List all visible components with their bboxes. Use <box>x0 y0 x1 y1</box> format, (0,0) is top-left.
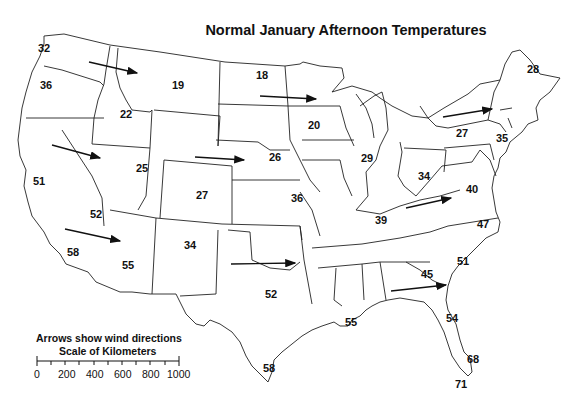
temp-key-west: 71 <box>455 379 467 390</box>
legend-scale-title: Scale of Kilometers <box>59 345 156 357</box>
legend-wind-note: Arrows show wind directions <box>36 332 182 344</box>
temp-nebraska: 26 <box>269 152 281 163</box>
temp-georgia: 45 <box>421 269 433 280</box>
temp-idaho: 22 <box>120 109 132 120</box>
temp-minnesota: 20 <box>308 120 320 131</box>
scale-tick-600: 600 <box>114 368 132 380</box>
temp-west-virginia: 40 <box>466 184 478 195</box>
temp-north-florida: 54 <box>446 313 458 324</box>
temp-north-carolina: 47 <box>477 219 489 230</box>
temp-oregon: 36 <box>40 80 52 91</box>
temp-utah: 25 <box>136 163 148 174</box>
temp-south-carolina: 51 <box>457 256 469 267</box>
temp-kentucky: 39 <box>375 215 387 226</box>
scale-tick-1000: 1000 <box>167 368 190 380</box>
temp-nevada-south: 52 <box>90 209 102 220</box>
wind-arrow-appalachia <box>406 198 451 208</box>
temp-kansas: 36 <box>291 193 303 204</box>
temp-california-north: 51 <box>33 176 45 187</box>
scale-bar <box>37 356 179 366</box>
temp-colorado: 27 <box>196 190 208 201</box>
wind-arrow-southeast <box>391 285 446 291</box>
scale-tick-800: 800 <box>142 368 160 380</box>
temp-washington: 32 <box>38 43 50 54</box>
temp-ohio: 34 <box>418 171 430 182</box>
wind-arrow-northwest <box>89 62 137 73</box>
wind-arrow-central-plains <box>195 157 244 160</box>
temp-new-york-city: 35 <box>496 133 508 144</box>
scale-tick-200: 200 <box>58 368 76 380</box>
temp-arizona: 55 <box>122 260 134 271</box>
wind-arrow-great-basin <box>52 145 100 158</box>
temp-texas: 52 <box>265 289 277 300</box>
wind-arrow-southwest <box>65 229 120 241</box>
temp-california-south: 58 <box>67 247 79 258</box>
wind-arrow-northeast <box>443 109 492 117</box>
wind-arrow-southern-plains <box>231 263 295 264</box>
wind-arrow-north-plains <box>260 96 316 99</box>
temp-south-florida: 68 <box>467 354 479 365</box>
scale-tick-0: 0 <box>34 368 40 380</box>
temp-louisiana: 55 <box>345 317 357 328</box>
temp-south-texas: 58 <box>263 363 275 374</box>
temp-upstate-new-york: 27 <box>456 128 468 139</box>
temp-new-mexico: 34 <box>184 240 196 251</box>
temp-montana: 19 <box>172 80 184 91</box>
temp-north-dakota: 18 <box>256 70 268 81</box>
temp-illinois: 29 <box>361 153 373 164</box>
scale-tick-400: 400 <box>86 368 104 380</box>
temp-maine: 28 <box>527 64 539 75</box>
